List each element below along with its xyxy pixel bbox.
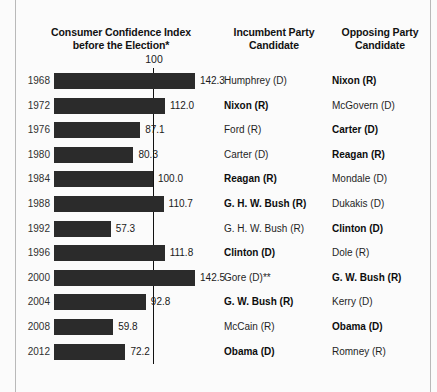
bar-fill	[54, 319, 113, 335]
incumbent-candidate: Obama (D)	[224, 346, 275, 357]
row-value-label: 57.3	[116, 223, 135, 234]
incumbent-candidate: Carter (D)	[224, 149, 268, 160]
incumbent-candidate: Clinton (D)	[224, 247, 275, 258]
row-value-label: 142.5	[200, 272, 225, 283]
row-bar	[54, 294, 146, 310]
row-year-label: 1980	[14, 149, 50, 160]
table-row: 199257.3G. H. W. Bush (R)Clinton (D)	[0, 218, 437, 243]
column-header-cci-line2: before the Election*	[36, 39, 206, 52]
bar-fill	[54, 221, 111, 237]
bar-fill	[54, 245, 165, 261]
row-bar	[54, 344, 125, 360]
row-value-label: 80.3	[138, 149, 157, 160]
row-year-label: 2008	[14, 321, 50, 332]
table-row: 201272.2Obama (D)Romney (R)	[0, 341, 437, 366]
row-bar	[54, 73, 195, 89]
reference-line-label: 100	[133, 53, 175, 65]
row-bar	[54, 270, 195, 286]
table-row: 1968142.3Humphrey (D)Nixon (R)	[0, 70, 437, 95]
bar-fill	[54, 147, 133, 163]
bar-fill	[54, 171, 153, 187]
opposing-candidate: Obama (D)	[332, 321, 383, 332]
row-year-label: 2012	[14, 346, 50, 357]
column-header-opposing: Opposing Party Candidate	[330, 26, 430, 52]
table-row: 1988110.7G. H. W. Bush (R)Dukakis (D)	[0, 193, 437, 218]
opposing-candidate: McGovern (D)	[332, 100, 395, 111]
opposing-candidate: Mondale (D)	[332, 173, 387, 184]
row-year-label: 2000	[14, 272, 50, 283]
incumbent-candidate: Ford (R)	[224, 124, 261, 135]
row-year-label: 1968	[14, 75, 50, 86]
row-value-label: 100.0	[158, 173, 183, 184]
column-header-opposing-line1: Opposing Party	[330, 26, 430, 39]
row-bar	[54, 147, 133, 163]
row-year-label: 1984	[14, 173, 50, 184]
incumbent-candidate: Gore (D)**	[224, 272, 271, 283]
incumbent-candidate: G. H. W. Bush (R)	[224, 223, 304, 234]
table-row: 200492.8G. W. Bush (R)Kerry (D)	[0, 291, 437, 316]
incumbent-candidate: McCain (R)	[224, 321, 275, 332]
row-bar	[54, 221, 111, 237]
row-value-label: 72.2	[130, 346, 149, 357]
consumer-confidence-election-chart: Consumer Confidence Index before the Ele…	[0, 0, 437, 392]
opposing-candidate: Romney (R)	[332, 346, 386, 357]
row-year-label: 1988	[14, 198, 50, 209]
row-year-label: 1996	[14, 247, 50, 258]
column-header-incumbent-line1: Incumbent Party	[222, 26, 326, 39]
column-header-incumbent-line2: Candidate	[222, 39, 326, 52]
row-value-label: 142.3	[200, 75, 225, 86]
row-value-label: 92.8	[151, 296, 170, 307]
incumbent-candidate: Reagan (R)	[224, 173, 277, 184]
table-row: 1996111.8Clinton (D)Dole (R)	[0, 242, 437, 267]
opposing-candidate: Kerry (D)	[332, 296, 373, 307]
row-year-label: 1992	[14, 223, 50, 234]
row-value-label: 110.7	[169, 198, 193, 209]
opposing-candidate: Dole (R)	[332, 247, 369, 258]
table-row: 1972112.0Nixon (R)McGovern (D)	[0, 95, 437, 120]
table-row: 200859.8McCain (R)Obama (D)	[0, 316, 437, 341]
row-bar	[54, 319, 113, 335]
incumbent-candidate: Humphrey (D)	[224, 75, 287, 86]
row-bar	[54, 171, 153, 187]
table-row: 1984100.0Reagan (R)Mondale (D)	[0, 168, 437, 193]
table-row: 2000142.5Gore (D)**G. W. Bush (R)	[0, 267, 437, 292]
column-header-cci-line1: Consumer Confidence Index	[36, 26, 206, 39]
row-value-label: 112.0	[170, 100, 194, 111]
opposing-candidate: Dukakis (D)	[332, 198, 384, 209]
column-header-opposing-line2: Candidate	[330, 39, 430, 52]
bar-fill	[54, 270, 195, 286]
row-value-label: 111.8	[170, 247, 194, 258]
row-bar	[54, 98, 165, 114]
row-year-label: 2004	[14, 296, 50, 307]
table-row: 198080.3Carter (D)Reagan (R)	[0, 144, 437, 169]
incumbent-candidate: G. H. W. Bush (R)	[224, 198, 306, 209]
row-year-label: 1976	[14, 124, 50, 135]
row-value-label: 87.1	[145, 124, 164, 135]
bar-fill	[54, 122, 140, 138]
column-header-cci: Consumer Confidence Index before the Ele…	[36, 26, 206, 52]
row-value-label: 59.8	[118, 321, 137, 332]
opposing-candidate: Clinton (D)	[332, 223, 383, 234]
opposing-candidate: Nixon (R)	[332, 75, 376, 86]
opposing-candidate: Reagan (R)	[332, 149, 385, 160]
bar-fill	[54, 344, 125, 360]
incumbent-candidate: G. W. Bush (R)	[224, 296, 293, 307]
column-header-incumbent: Incumbent Party Candidate	[222, 26, 326, 52]
row-bar	[54, 122, 140, 138]
bar-fill	[54, 196, 164, 212]
row-bar	[54, 245, 165, 261]
bar-fill	[54, 73, 195, 89]
table-row: 197687.1Ford (R)Carter (D)	[0, 119, 437, 144]
row-bar	[54, 196, 164, 212]
bar-fill	[54, 98, 165, 114]
incumbent-candidate: Nixon (R)	[224, 100, 268, 111]
row-year-label: 1972	[14, 100, 50, 111]
bar-fill	[54, 294, 146, 310]
opposing-candidate: Carter (D)	[332, 124, 378, 135]
opposing-candidate: G. W. Bush (R)	[332, 272, 401, 283]
